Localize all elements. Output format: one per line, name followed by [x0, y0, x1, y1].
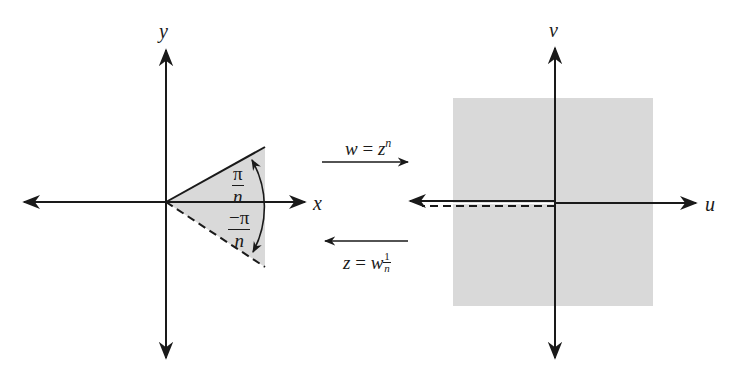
- inverse-base: w: [371, 252, 384, 273]
- forward-lhs: w: [345, 138, 358, 159]
- z-plane: [24, 50, 305, 358]
- upper-angle-numerator: π: [232, 164, 244, 186]
- forward-exponent: n: [385, 136, 391, 150]
- lower-angle-label: −π n: [228, 208, 250, 250]
- u-axis-label: u: [705, 194, 715, 214]
- diagram-canvas: [0, 0, 729, 376]
- upper-angle-label: π n: [232, 164, 244, 206]
- x-axis-label: x: [313, 193, 322, 213]
- inverse-map-equation: z = w1n: [343, 251, 391, 274]
- upper-angle-denominator: n: [233, 186, 243, 206]
- lower-angle-numerator: −π: [228, 208, 250, 230]
- w-plane: [410, 48, 696, 358]
- v-axis-label: v: [549, 20, 558, 40]
- forward-map-equation: w = zn: [345, 136, 391, 160]
- lower-angle-denominator: n: [234, 230, 244, 250]
- y-axis-label: y: [159, 21, 168, 41]
- inverse-exponent: 1n: [383, 251, 391, 274]
